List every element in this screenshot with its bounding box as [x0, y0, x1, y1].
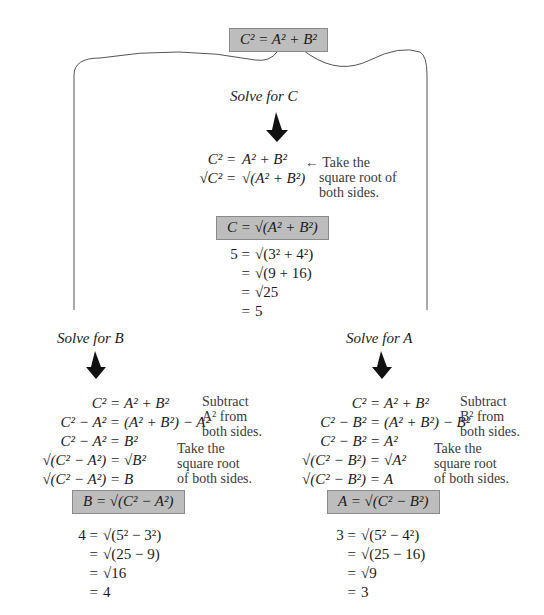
step-lhs: C² − A² =: [20, 432, 120, 451]
step-lhs: C² =: [280, 394, 380, 413]
example-lhs: =: [64, 545, 98, 564]
example-rhs: √(5² − 3²): [103, 526, 161, 545]
top-equation: C² = A² + B²: [240, 31, 317, 47]
step-rhs: A² + B²: [242, 150, 287, 169]
step-lhs: √(C² − A²) =: [20, 470, 120, 489]
note-line: square root of: [305, 170, 397, 185]
note-line: A² from: [202, 409, 262, 424]
arrow-down-icon: [372, 351, 392, 379]
result-b: B = √(C² − A²): [83, 493, 174, 509]
example-lhs: 3 =: [322, 526, 356, 545]
example-rhs: 4: [103, 583, 111, 602]
note-line: ← Take the: [305, 155, 397, 170]
step-rhs: A: [384, 470, 393, 489]
step-rhs: A² + B²: [124, 394, 169, 413]
example-lhs: =: [322, 564, 356, 583]
example-lhs: =: [322, 545, 356, 564]
step-rhs: √A²: [384, 451, 406, 470]
step-lhs: C² − A² =: [20, 413, 120, 432]
example-rhs: √25: [255, 283, 278, 302]
example-rhs: √(25 − 9): [103, 545, 160, 564]
note-subtract-a: Subtract B² from both sides.: [460, 394, 520, 439]
example-rhs: √(9 + 16): [255, 264, 312, 283]
step-rhs: A²: [384, 432, 398, 451]
note-line: Take the: [434, 441, 509, 456]
note-line: of both sides.: [177, 471, 252, 486]
note-line: both sides.: [460, 424, 520, 439]
example-lhs: =: [216, 264, 250, 283]
example-rhs: √(3² + 4²): [255, 245, 313, 264]
example-lhs: =: [64, 583, 98, 602]
result-a-box: A = √(C² − B²): [327, 490, 440, 514]
step-rhs: (A² + B²) − B²: [384, 413, 470, 432]
example-lhs: =: [216, 283, 250, 302]
top-equation-box: C² = A² + B²: [229, 28, 328, 52]
example-lhs: 4 =: [64, 526, 98, 545]
step-lhs: √C² =: [140, 169, 236, 188]
note-line: Subtract: [202, 394, 262, 409]
note-line: Subtract: [460, 394, 520, 409]
step-lhs: √(C² − B²) =: [280, 470, 380, 489]
note-line: both sides.: [202, 424, 262, 439]
example-lhs: =: [216, 302, 250, 321]
solve-for-a-label: Solve for A: [346, 330, 412, 347]
step-rhs: √(A² + B²): [242, 169, 305, 188]
step-lhs: √(C² − B²) =: [280, 451, 380, 470]
example-lhs: 5 =: [216, 245, 250, 264]
example-rhs: √9: [361, 564, 377, 583]
example-rhs: 5: [255, 302, 263, 321]
solve-c-steps: C² =A² + B² √C² =√(A² + B²): [140, 150, 305, 188]
step-lhs: C² − B² =: [280, 413, 380, 432]
example-lhs: =: [64, 564, 98, 583]
result-b-box: B = √(C² − A²): [72, 490, 185, 514]
step-rhs: (A² + B²) − A²: [124, 413, 210, 432]
example-lhs: =: [322, 583, 356, 602]
example-b: 4 =√(5² − 3²) =√(25 − 9) =√16 =4: [64, 526, 161, 602]
example-rhs: √(5² − 4²): [361, 526, 419, 545]
note-take-root-c: ← Take the square root of both sides.: [305, 155, 397, 200]
step-rhs: B²: [124, 432, 138, 451]
example-rhs: √16: [103, 564, 126, 583]
note-line: square root: [177, 456, 252, 471]
step-lhs: √(C² − A²) =: [20, 451, 120, 470]
step-lhs: C² =: [140, 150, 236, 169]
note-line: square root: [434, 456, 509, 471]
result-c: C = √(A² + B²): [227, 219, 318, 235]
step-rhs: B: [124, 470, 133, 489]
example-rhs: √(25 − 16): [361, 545, 425, 564]
note-take-root-b: Take the square root of both sides.: [177, 441, 252, 486]
step-rhs: A² + B²: [384, 394, 429, 413]
note-line: Take the: [177, 441, 252, 456]
note-subtract-b: Subtract A² from both sides.: [202, 394, 262, 439]
arrow-down-icon: [86, 351, 106, 379]
arrow-down-icon: [266, 112, 288, 142]
example-a: 3 =√(5² − 4²) =√(25 − 16) =√9 =3: [322, 526, 425, 602]
step-lhs: C² − B² =: [280, 432, 380, 451]
example-c: 5 =√(3² + 4²) =√(9 + 16) =√25 =5: [216, 245, 313, 321]
solve-for-c-label: Solve for C: [230, 88, 298, 105]
result-c-box: C = √(A² + B²): [216, 216, 329, 240]
note-line: B² from: [460, 409, 520, 424]
step-rhs: √B²: [124, 451, 146, 470]
example-rhs: 3: [361, 583, 369, 602]
note-take-root-a: Take the square root of both sides.: [434, 441, 509, 486]
result-a: A = √(C² − B²): [338, 493, 429, 509]
note-line: both sides.: [305, 185, 397, 200]
solve-for-b-label: Solve for B: [57, 330, 124, 347]
note-line: of both sides.: [434, 471, 509, 486]
step-lhs: C² =: [20, 394, 120, 413]
